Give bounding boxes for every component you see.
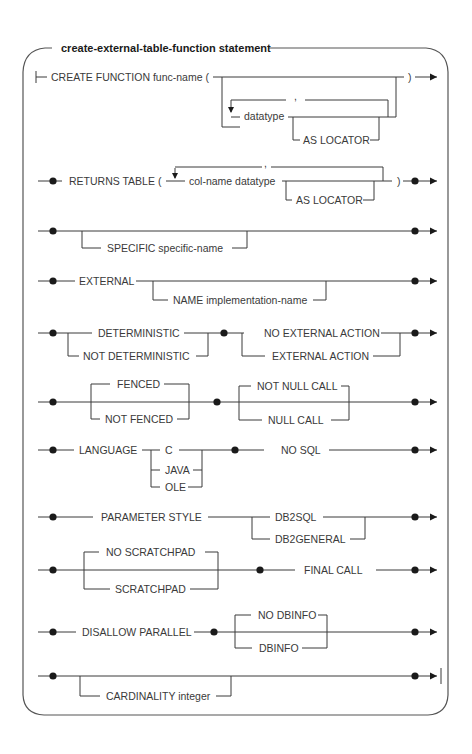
not-fenced-option: NOT FENCED	[105, 413, 173, 425]
returns-close-paren: )	[397, 175, 401, 187]
diagram-title: create-external-table-function statement	[61, 42, 271, 54]
not-deterministic-option: NOT DETERMINISTIC	[83, 350, 190, 362]
row-language: LANGUAGE C JAVA OLE NO SQL	[38, 444, 437, 493]
scratchpad-option: SCRATCHPAD	[115, 583, 186, 595]
create-function-keyword: CREATE FUNCTION func-name (	[51, 71, 209, 83]
row-scratchpad: NO SCRATCHPAD SCRATCHPAD FINAL CALL	[38, 546, 437, 595]
no-dbinfo-option: NO DBINFO	[258, 609, 316, 621]
row-deterministic: DETERMINISTIC NOT DETERMINISTIC NO EXTER…	[38, 327, 437, 362]
external-name-option: NAME implementation-name	[173, 294, 307, 306]
create-as-locator: AS LOCATOR	[303, 134, 370, 146]
fenced-option: FENCED	[117, 378, 161, 390]
not-null-call-option: NOT NULL CALL	[257, 380, 338, 392]
external-keyword: EXTERNAL	[79, 275, 135, 287]
db2sql-option: DB2SQL	[275, 511, 317, 523]
row-specific: SPECIFIC specific-name	[38, 227, 437, 254]
final-call-keyword: FINAL CALL	[304, 564, 363, 576]
no-external-action-option: NO EXTERNAL ACTION	[264, 327, 380, 339]
row-create-function: CREATE FUNCTION func-name ( ) , datatype…	[36, 71, 437, 146]
create-close-paren: )	[408, 71, 412, 83]
returns-as-locator: AS LOCATOR	[296, 194, 363, 206]
diagram-frame: create-external-table-function statement	[23, 42, 448, 715]
specific-name-option: SPECIFIC specific-name	[107, 242, 223, 254]
row-cardinality: CARDINALITY integer	[38, 668, 441, 702]
returns-table-keyword: RETURNS TABLE (	[69, 175, 162, 187]
row-disallow-parallel: DISALLOW PARALLEL NO DBINFO DBINFO	[38, 609, 437, 654]
returns-repeat-separator: ,	[264, 157, 267, 169]
disallow-parallel-keyword: DISALLOW PARALLEL	[82, 626, 192, 638]
row-parameter-style: PARAMETER STYLE DB2SQL DB2GENERAL	[38, 511, 437, 545]
language-c-option: C	[165, 444, 173, 456]
row-external: EXTERNAL NAME implementation-name	[38, 275, 437, 306]
null-call-option: NULL CALL	[268, 414, 324, 426]
returns-col-name-datatype: col-name datatype	[189, 175, 276, 187]
dbinfo-option: DBINFO	[259, 642, 299, 654]
deterministic-option: DETERMINISTIC	[98, 327, 180, 339]
external-action-option: EXTERNAL ACTION	[272, 350, 369, 362]
language-java-option: JAVA	[165, 464, 190, 476]
language-ole-option: OLE	[165, 481, 186, 493]
parameter-style-keyword: PARAMETER STYLE	[101, 511, 202, 523]
language-keyword: LANGUAGE	[79, 444, 137, 456]
no-scratchpad-option: NO SCRATCHPAD	[106, 546, 196, 558]
cardinality-option: CARDINALITY integer	[106, 690, 211, 702]
syntax-diagram: create-external-table-function statement…	[0, 0, 472, 754]
datatype-param: datatype	[244, 110, 284, 122]
db2general-option: DB2GENERAL	[275, 533, 346, 545]
create-repeat-separator: ,	[294, 90, 297, 102]
row-returns-table: RETURNS TABLE ( , col-name datatype AS L…	[38, 157, 437, 206]
no-sql-keyword: NO SQL	[281, 444, 321, 456]
row-fenced: FENCED NOT FENCED NOT NULL CALL NULL CAL…	[38, 378, 437, 426]
